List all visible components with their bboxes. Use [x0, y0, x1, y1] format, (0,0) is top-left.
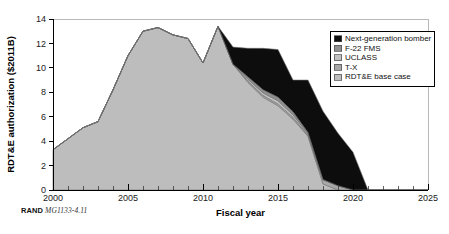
legend-item-1[interactable]: F-22 FMS — [334, 44, 381, 53]
legend-item-label: T-X — [345, 63, 358, 72]
legend-swatch-icon — [334, 55, 342, 61]
y-tick-label: 10 — [36, 63, 46, 73]
legend-item-label: RDT&E base case — [345, 72, 411, 81]
x-tick-label: 2015 — [268, 193, 288, 203]
y-tick-label: 8 — [41, 87, 46, 97]
x-tick-label: 2020 — [343, 193, 363, 203]
legend-swatch-icon — [334, 45, 342, 51]
x-tick-label: 2010 — [193, 193, 213, 203]
legend-swatch-icon — [334, 36, 342, 42]
legend-swatch-icon — [334, 64, 342, 70]
legend-item-0[interactable]: Next-generation bomber — [334, 34, 432, 43]
legend-swatch-icon — [334, 74, 342, 80]
legend-item-label: Next-generation bomber — [345, 34, 432, 43]
legend-item-label: UCLASS — [345, 53, 377, 62]
y-tick-label: 2 — [41, 161, 46, 171]
legend-item-2[interactable]: UCLASS — [334, 53, 377, 62]
area-chart: 02468101214200020052010201520202025Fisca… — [0, 0, 449, 234]
x-tick-label: 2000 — [43, 193, 63, 203]
figure-caption: RANDMG1133-4.11 — [21, 206, 87, 215]
y-tick-label: 6 — [41, 112, 46, 122]
y-axis-title: RDT&E authorization ($2011B) — [5, 36, 16, 173]
x-axis-title: Fiscal year — [216, 207, 265, 218]
legend-item-3[interactable]: T-X — [334, 63, 358, 72]
x-tick-label: 2025 — [418, 193, 438, 203]
x-tick-label: 2005 — [118, 193, 138, 203]
figure-container: 02468101214200020052010201520202025Fisca… — [0, 0, 449, 234]
legend-item-4[interactable]: RDT&E base case — [334, 72, 411, 81]
legend-item-label: F-22 FMS — [345, 44, 381, 53]
caption-document-id: MG1133-4.11 — [45, 206, 87, 215]
chart-legend: Next-generation bomberF-22 FMSUCLASST-XR… — [330, 31, 434, 86]
caption-publisher: RAND — [21, 206, 43, 215]
y-tick-label: 12 — [36, 39, 46, 49]
y-tick-label: 4 — [41, 136, 46, 146]
y-tick-label: 14 — [36, 14, 46, 24]
